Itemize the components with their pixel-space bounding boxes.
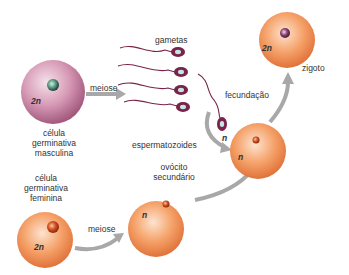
sperm-heads <box>171 47 227 131</box>
male-germ-cell <box>21 60 85 124</box>
gametes-label: gametas <box>155 35 188 45</box>
zygote-label: zigoto <box>302 63 325 73</box>
female-meiosis-arrow <box>75 238 118 249</box>
male-cell-ploidy: 2n <box>31 96 41 106</box>
female-cell-ploidy: 2n <box>34 242 44 252</box>
egg-ploidy: n <box>238 152 243 162</box>
male-meiosis-label: meiose <box>90 83 117 93</box>
nucleus-icon <box>47 79 59 91</box>
oocyte-ploidy: n <box>142 210 147 220</box>
nucleus-icon <box>280 28 290 38</box>
zygote-ploidy: 2n <box>262 43 272 53</box>
zygote <box>259 12 315 68</box>
nucleus-icon <box>253 137 260 144</box>
nucleus-icon <box>47 221 59 233</box>
nucleus-icon <box>163 201 170 208</box>
female-germ-cell <box>17 212 73 268</box>
secondary-oocyte <box>128 201 184 258</box>
female-germ-cell-label: célula germinativa feminina <box>14 173 78 203</box>
secondary-oocyte-label: ovócito secundário <box>142 162 206 182</box>
sperm-label: espermatozoides <box>132 140 197 150</box>
fertilization-label: fecundação <box>225 90 269 100</box>
fertilized-egg <box>230 123 286 179</box>
male-germ-cell-label: célula germinativa masculina <box>22 128 86 158</box>
female-meiosis-label: meiose <box>88 224 115 234</box>
fertilization-diagram: 2n célula germinativa masculina meiose g… <box>0 0 349 275</box>
sperm-group <box>118 46 220 118</box>
fertilization-arrow <box>270 82 288 122</box>
sperm-ploidy: n <box>222 133 227 143</box>
